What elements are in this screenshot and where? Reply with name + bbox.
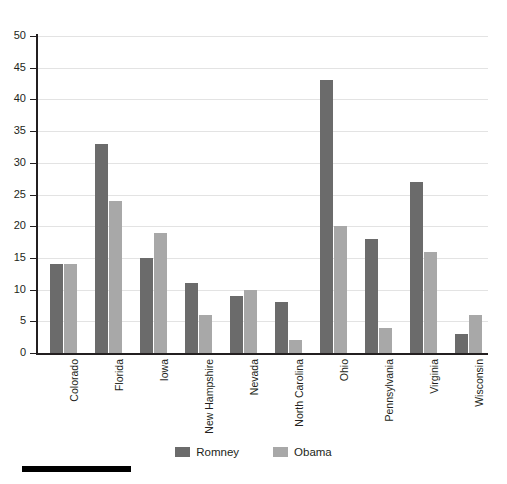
y-axis-tick-label: 0 <box>0 347 26 358</box>
bar-romney-nevada <box>230 296 243 353</box>
y-axis-tick <box>30 36 38 37</box>
chart-legend: RomneyObama <box>0 446 507 458</box>
legend-label-obama: Obama <box>294 446 332 458</box>
y-axis-tick <box>30 99 38 100</box>
bar-group <box>50 36 77 353</box>
bar-obama-wisconsin <box>469 315 482 353</box>
bar-obama-florida <box>109 201 122 353</box>
bar-obama-new-hampshire <box>199 315 212 353</box>
y-axis-tick <box>30 68 38 69</box>
y-axis-tick-label: 5 <box>0 315 26 326</box>
bar-chart-figure: 05101520253035404550 ColoradoFloridaIowa… <box>0 0 507 484</box>
x-axis-label-colorado: Colorado <box>69 359 80 402</box>
x-axis-label-north-carolina: North Carolina <box>294 359 305 427</box>
y-axis-tick-label: 25 <box>0 189 26 200</box>
x-axis-label-florida: Florida <box>114 359 125 391</box>
x-axis-line <box>36 353 488 355</box>
bar-group <box>275 36 302 353</box>
bar-romney-iowa <box>140 258 153 353</box>
bar-romney-colorado <box>50 264 63 353</box>
y-axis-tick <box>30 321 38 322</box>
x-axis-label-wisconsin: Wisconsin <box>474 359 485 407</box>
bar-group <box>410 36 437 353</box>
bar-romney-ohio <box>320 80 333 353</box>
y-axis-tick <box>30 195 38 196</box>
legend-item-obama: Obama <box>273 446 332 458</box>
bar-group <box>455 36 482 353</box>
y-axis-tick-label: 15 <box>0 252 26 263</box>
x-axis-label-nevada: Nevada <box>249 359 260 395</box>
y-axis-tick-label: 30 <box>0 157 26 168</box>
bar-group <box>185 36 212 353</box>
legend-swatch-obama <box>273 447 288 457</box>
bar-romney-north-carolina <box>275 302 288 353</box>
y-axis-tick <box>30 290 38 291</box>
x-axis-label-iowa: Iowa <box>159 359 170 381</box>
y-axis-tick <box>30 258 38 259</box>
bar-obama-colorado <box>64 264 77 353</box>
bottom-rule <box>22 466 131 472</box>
bar-romney-pennsylvania <box>365 239 378 353</box>
bar-group <box>230 36 257 353</box>
x-axis-label-pennsylvania: Pennsylvania <box>384 359 395 421</box>
bar-romney-wisconsin <box>455 334 468 353</box>
y-axis-tick-label: 50 <box>0 30 26 41</box>
bar-obama-pennsylvania <box>379 328 392 353</box>
y-axis-tick-label: 35 <box>0 125 26 136</box>
bar-group <box>365 36 392 353</box>
x-axis-label-new-hampshire: New Hampshire <box>204 359 215 434</box>
x-axis-label-virginia: Virginia <box>429 359 440 394</box>
legend-label-romney: Romney <box>196 446 239 458</box>
x-axis-label-ohio: Ohio <box>339 359 350 381</box>
y-axis-tick <box>30 226 38 227</box>
y-axis-tick <box>30 131 38 132</box>
bar-romney-virginia <box>410 182 423 353</box>
bar-obama-north-carolina <box>289 340 302 353</box>
bar-romney-florida <box>95 144 108 353</box>
bar-group <box>140 36 167 353</box>
y-axis-tick <box>30 163 38 164</box>
bar-obama-nevada <box>244 290 257 353</box>
bar-obama-ohio <box>334 226 347 353</box>
y-axis-tick-label: 20 <box>0 220 26 231</box>
y-axis-tick <box>30 353 38 354</box>
bar-group <box>95 36 122 353</box>
y-axis-tick-label: 45 <box>0 62 26 73</box>
bar-obama-virginia <box>424 252 437 353</box>
legend-item-romney: Romney <box>175 446 239 458</box>
y-axis-tick-label: 40 <box>0 93 26 104</box>
y-axis-tick-label: 10 <box>0 284 26 295</box>
bar-obama-iowa <box>154 233 167 353</box>
bar-romney-new-hampshire <box>185 283 198 353</box>
legend-swatch-romney <box>175 447 190 457</box>
bar-group <box>320 36 347 353</box>
